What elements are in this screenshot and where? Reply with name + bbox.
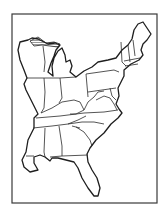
eastern-us-outline-map [0,0,166,214]
lake-superior-hatch [30,37,60,47]
map-container: Eastern United States outline map [0,0,166,214]
